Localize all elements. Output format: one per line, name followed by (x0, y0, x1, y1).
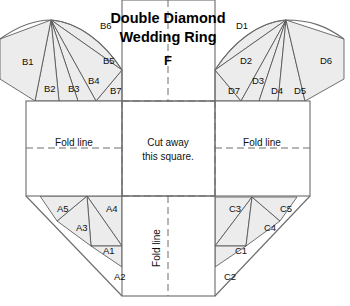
piece-label-B4: B4 (88, 75, 100, 86)
piece-label-D2: D2 (240, 55, 252, 66)
piece-label-D1: D1 (236, 20, 248, 31)
cut-label-line-1: Cut away (147, 137, 189, 148)
piece-label-B6: B6 (100, 20, 112, 31)
piece-label-C1: C1 (235, 245, 247, 256)
piece-label-B2: B2 (44, 83, 56, 94)
piece-label-A3: A3 (76, 222, 88, 233)
piece-label-D4: D4 (271, 85, 283, 96)
piece-label-A2: A2 (114, 271, 126, 282)
piece-label-D5: D5 (294, 85, 306, 96)
piece-label-C2: C2 (224, 271, 236, 282)
piece-label-D6: D6 (320, 55, 332, 66)
piece-label-A4: A4 (106, 203, 118, 214)
piece-label-C4: C4 (264, 222, 276, 233)
title-line-2: Wedding Ring (119, 29, 216, 45)
title-line-1: Double Diamond (110, 10, 225, 26)
diagram-canvas: Double Diamond Wedding Ring F Fold line … (0, 0, 350, 306)
piece-label-B7: B7 (110, 85, 122, 96)
piece-label-B1: B1 (22, 56, 34, 67)
title-block: Double Diamond Wedding Ring F (110, 10, 225, 69)
piece-label-B5: B5 (103, 55, 115, 66)
piece-label-A1: A1 (103, 245, 115, 256)
piece-label-C5: C5 (280, 203, 292, 214)
piece-label-D7: D7 (228, 85, 240, 96)
panel-label-F: F (164, 53, 172, 68)
piece-label-A5: A5 (57, 203, 69, 214)
piece-label-D3: D3 (252, 75, 264, 86)
fold-label-bottom: Fold line (151, 229, 162, 267)
piece-label-C3: C3 (229, 203, 241, 214)
piece-label-B3: B3 (68, 83, 80, 94)
fold-label-left: Fold line (55, 137, 93, 148)
cut-label-line-2: this square. (142, 151, 194, 162)
fold-label-right: Fold line (243, 137, 281, 148)
